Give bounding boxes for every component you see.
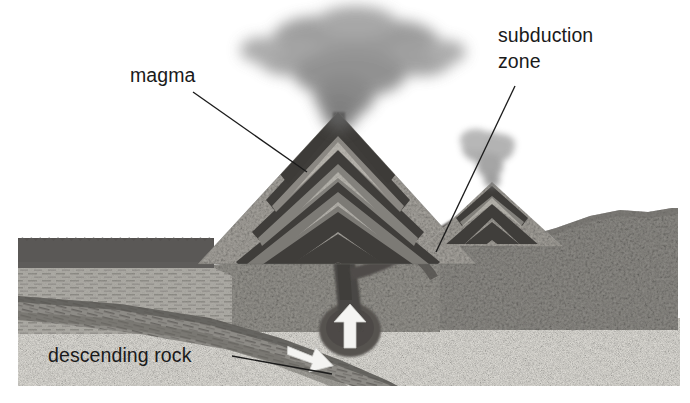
label-subduction-zone-line1: subduction — [498, 24, 593, 46]
diagram-canvas: magma subduction zone descending rock — [0, 0, 690, 403]
label-magma: magma — [130, 64, 196, 86]
label-subduction-zone-line2: zone — [498, 50, 541, 72]
ocean-surface-scallops — [18, 238, 214, 263]
label-descending-rock: descending rock — [48, 344, 192, 366]
